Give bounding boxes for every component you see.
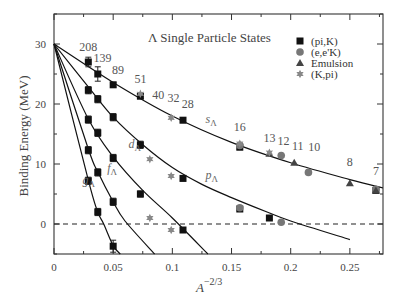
mass-number-label: 10 xyxy=(308,140,320,154)
mass-number-label: 28 xyxy=(182,97,194,111)
mass-number-label: 11 xyxy=(292,139,304,153)
series-pik xyxy=(85,57,380,252)
mass-number-label: 8 xyxy=(347,155,353,169)
mass-number-label: 51 xyxy=(134,72,146,86)
data-point xyxy=(236,204,244,212)
mass-number-label: 13 xyxy=(263,131,275,145)
data-point xyxy=(94,71,101,78)
shell-label: pΛ xyxy=(204,168,218,184)
chart-container: 00.050.10.150.20.250102030 2081398951403… xyxy=(0,0,406,302)
data-point xyxy=(277,218,285,226)
legend-marker-triangle xyxy=(296,59,304,66)
data-point xyxy=(168,226,175,234)
x-tick-label: 0.25 xyxy=(340,261,360,273)
data-point xyxy=(146,214,153,222)
x-tick-label: 0.15 xyxy=(222,261,242,273)
data-point xyxy=(266,215,273,222)
x-axis-label: A−2/3 xyxy=(195,276,222,295)
legend: (pi,K)(e,e'K)Emulsion(K,pi) xyxy=(296,35,354,81)
mass-number-label: 7 xyxy=(373,164,379,178)
data-point xyxy=(290,159,298,166)
data-point xyxy=(179,117,186,124)
binding-energy-chart: 00.050.10.150.20.250102030 2081398951403… xyxy=(0,0,406,302)
legend-marker-square xyxy=(297,38,304,45)
shell-label: fΛ xyxy=(107,161,117,177)
mass-number-label: 89 xyxy=(112,63,124,77)
mass-number-label: 16 xyxy=(234,120,246,134)
data-point xyxy=(110,155,117,162)
shell-label: gΛ xyxy=(82,173,95,189)
y-tick-label: 0 xyxy=(41,218,47,230)
legend-marker-circle xyxy=(296,48,304,56)
data-point xyxy=(85,116,92,123)
data-point xyxy=(94,129,101,136)
x-tick-label: 0.1 xyxy=(165,261,179,273)
data-point xyxy=(179,175,186,182)
y-tick-label: 30 xyxy=(35,38,47,50)
x-tick-label: 0.2 xyxy=(284,261,298,273)
data-point xyxy=(110,198,117,205)
mass-number-label: 32 xyxy=(168,91,180,105)
data-point xyxy=(179,227,186,234)
shell-label: dΛ xyxy=(129,137,142,153)
legend-marker-star xyxy=(296,70,303,78)
mass-number-label: 139 xyxy=(94,51,112,65)
data-point xyxy=(137,191,144,198)
data-point xyxy=(85,147,92,154)
data-point xyxy=(94,209,101,216)
y-tick-label: 10 xyxy=(35,158,47,170)
mass-number-label: 40 xyxy=(152,88,164,102)
data-point xyxy=(168,114,175,122)
data-point xyxy=(146,155,153,163)
data-point xyxy=(110,243,117,250)
data-point xyxy=(277,152,285,160)
x-axis-title: A−2/3 xyxy=(195,276,222,295)
mass-number-label: 12 xyxy=(278,134,290,148)
chart-title: Λ Single Particle States xyxy=(148,30,271,45)
x-tick-label: 0 xyxy=(51,261,57,273)
data-point xyxy=(305,169,313,177)
data-point xyxy=(94,169,101,176)
y-tick-label: 20 xyxy=(35,98,47,110)
legend-label: (K,pi) xyxy=(311,68,338,81)
data-point xyxy=(85,87,92,94)
data-points xyxy=(85,57,380,252)
data-point xyxy=(110,114,117,121)
shell-label: sΛ xyxy=(205,112,217,128)
data-point xyxy=(94,96,101,103)
y-axis-title: Binding Energy (MeV) xyxy=(16,75,31,196)
data-point xyxy=(110,81,117,88)
x-tick-label: 0.05 xyxy=(104,261,124,273)
data-point xyxy=(168,172,175,180)
data-point xyxy=(85,59,92,66)
